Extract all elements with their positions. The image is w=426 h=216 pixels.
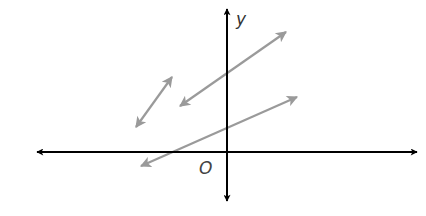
upper-line <box>180 32 286 106</box>
y-axis-label: y <box>235 9 247 29</box>
coordinate-plane-diagram: y O <box>0 0 426 216</box>
origin-label: O <box>199 158 212 178</box>
lower-line <box>141 97 297 166</box>
short-line <box>136 77 172 127</box>
